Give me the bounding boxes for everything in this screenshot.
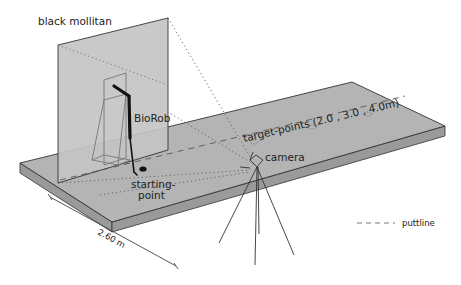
legend-puttline-label: puttline xyxy=(402,218,435,228)
experimental-setup-diagram: 2.60 m black mollitan BioRob starting- p… xyxy=(0,0,461,285)
mollitan-label: black mollitan xyxy=(38,15,112,27)
camera-label: camera xyxy=(265,151,305,163)
starting-point-ball xyxy=(139,166,146,171)
starting-point-label-line2: point xyxy=(138,189,165,201)
biorob-label: BioRob xyxy=(134,112,171,124)
legend: puttline xyxy=(357,218,435,228)
